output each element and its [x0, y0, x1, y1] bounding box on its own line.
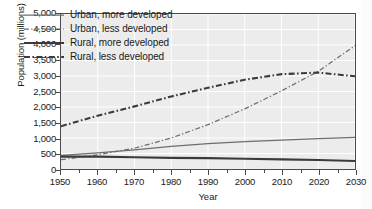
x-tick-label: 1950: [40, 176, 80, 187]
x-tick-mark-minor: [190, 170, 191, 173]
x-axis-tick-labels: 195019601970198019902000201020202030: [60, 176, 356, 189]
x-tick-label: 1990: [188, 176, 228, 187]
x-tick-label: 1980: [151, 176, 191, 187]
x-tick-mark-minor: [116, 170, 117, 173]
x-tick-mark-major: [282, 170, 283, 175]
legend-line-swatch-icon: [24, 37, 64, 49]
x-tick-mark-minor: [79, 170, 80, 173]
legend-line-swatch-icon: [24, 51, 64, 63]
x-tick-mark-minor: [153, 170, 154, 173]
x-tick-label: 2000: [225, 176, 265, 187]
y-tick-mark: [55, 13, 60, 14]
y-tick-label: 1,000: [14, 134, 56, 144]
y-tick-mark: [55, 92, 60, 93]
x-tick-label: 2020: [299, 176, 339, 187]
x-tick-label: 1970: [114, 176, 154, 187]
x-tick-mark-minor: [301, 170, 302, 173]
legend-label: Urban, more developed: [70, 9, 172, 21]
legend-item: Urban, more developed: [24, 8, 234, 22]
y-tick-label: 1,500: [14, 118, 56, 128]
y-tick-mark: [55, 123, 60, 124]
legend-item: Rural, less developed: [24, 50, 234, 64]
x-tick-mark-minor: [338, 170, 339, 173]
x-tick-label: 2010: [262, 176, 302, 187]
x-tick-mark-major: [319, 170, 320, 175]
y-tick-mark: [55, 44, 60, 45]
y-tick-mark: [55, 107, 60, 108]
y-tick-label: 0: [14, 165, 56, 175]
legend-line-swatch-icon: [24, 9, 64, 21]
y-tick-mark: [55, 139, 60, 140]
y-tick-mark: [55, 60, 60, 61]
x-tick-mark-major: [208, 170, 209, 175]
population-line-chart: Population (millions) 05001,0001,5002,00…: [0, 0, 372, 209]
x-tick-mark-major: [60, 170, 61, 175]
x-tick-label: 1960: [77, 176, 117, 187]
x-axis-title: Year: [60, 191, 356, 202]
y-tick-mark: [55, 154, 60, 155]
y-tick-mark: [55, 76, 60, 77]
y-tick-label: 2,000: [14, 102, 56, 112]
legend-label: Rural, less developed: [70, 51, 164, 63]
y-tick-mark: [55, 29, 60, 30]
y-tick-label: 3,000: [14, 71, 56, 81]
x-tick-mark-minor: [264, 170, 265, 173]
x-tick-mark-major: [134, 170, 135, 175]
x-tick-mark-major: [97, 170, 98, 175]
chart-legend: Urban, more developedUrban, less develop…: [24, 8, 234, 64]
x-tick-mark-major: [171, 170, 172, 175]
x-tick-mark-major: [356, 170, 357, 175]
y-tick-label: 500: [14, 150, 56, 160]
x-tick-mark-minor: [227, 170, 228, 173]
legend-item: Rural, more developed: [24, 36, 234, 50]
x-tick-mark-major: [245, 170, 246, 175]
x-tick-label: 2030: [336, 176, 372, 187]
legend-label: Rural, more developed: [70, 37, 169, 49]
legend-label: Urban, less developed: [70, 23, 167, 35]
y-tick-label: 2,500: [14, 87, 56, 97]
